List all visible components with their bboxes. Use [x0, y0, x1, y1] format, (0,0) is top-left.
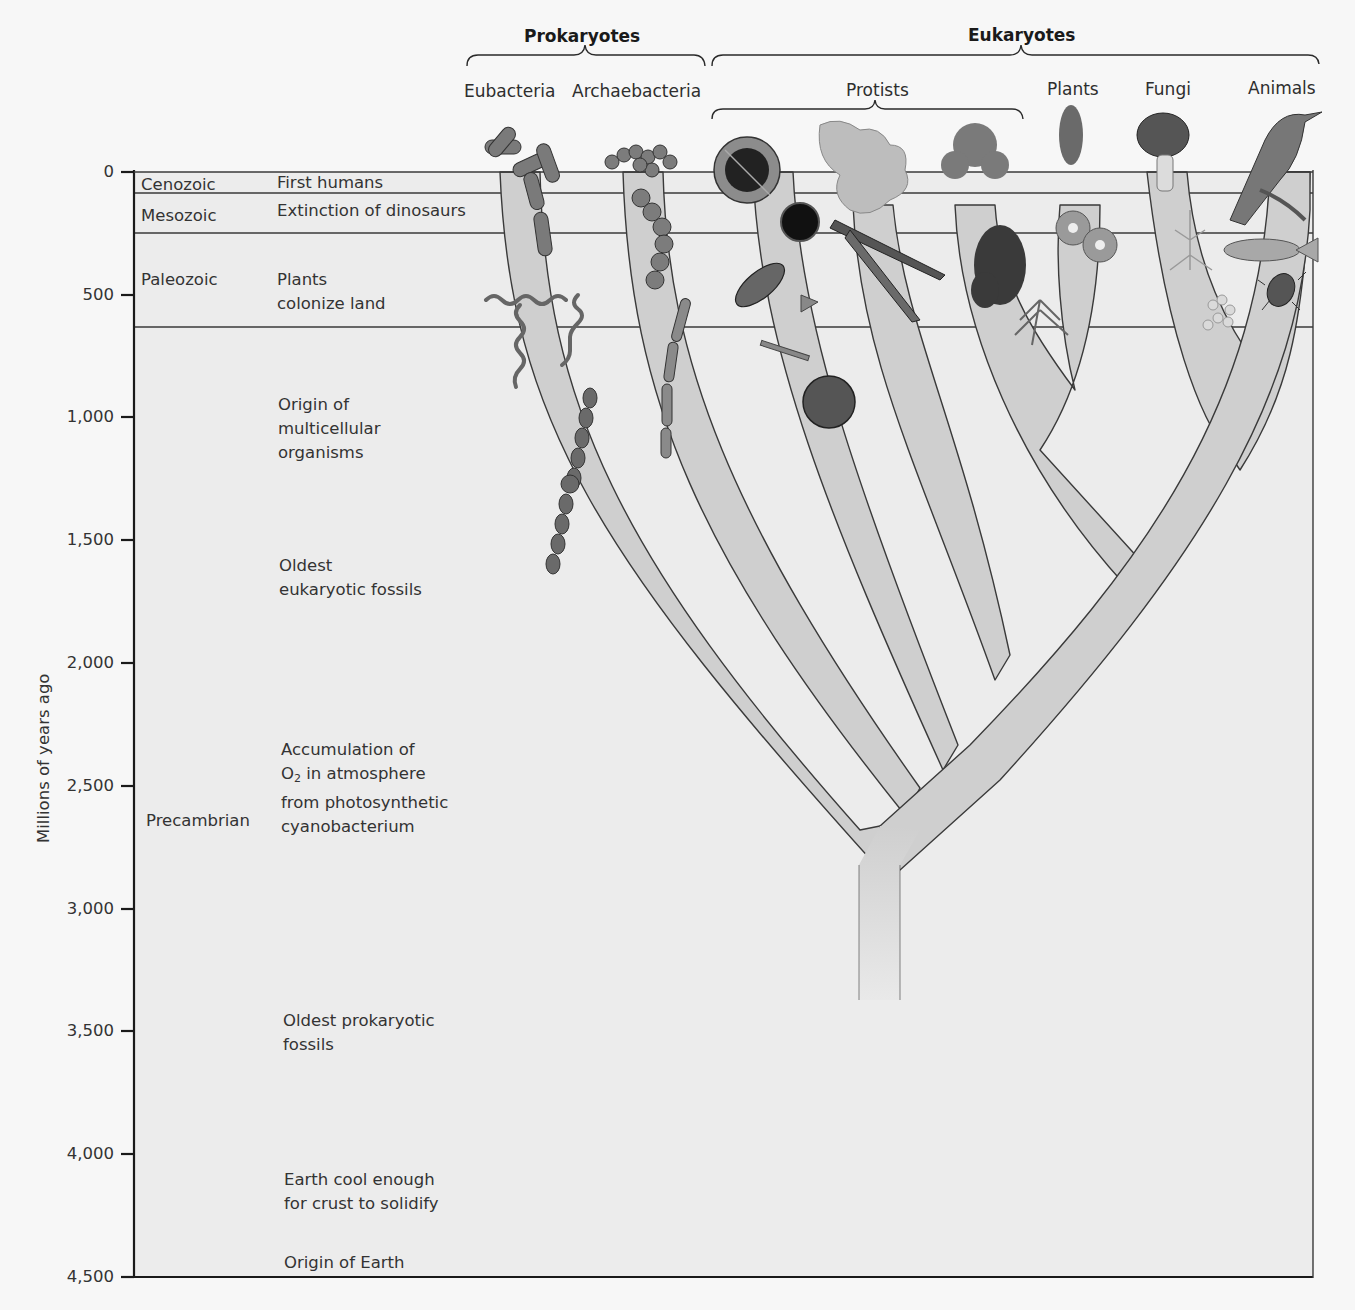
event-first-humans: First humans	[277, 175, 383, 192]
taxon-archaebacteria: Archaebacteria	[572, 83, 701, 100]
y-axis-title: Millions of years ago	[36, 674, 53, 843]
event-origin-of-earth: Origin of Earth	[284, 1255, 405, 1272]
tick-label-2000: 2,000	[14, 655, 114, 672]
eukaryotes-brace	[712, 45, 1319, 66]
tick-label-1500: 1,500	[14, 532, 114, 549]
tick-label-1000: 1,000	[14, 409, 114, 426]
chart-area	[134, 172, 1313, 1277]
tick-label-4000: 4,000	[14, 1146, 114, 1163]
event-multicellular-origin: Origin of multicellular organisms	[278, 393, 381, 465]
tick-label-0: 0	[14, 164, 114, 181]
event-dinosaur-extinction: Extinction of dinosaurs	[277, 203, 466, 220]
heliozoan-icon	[781, 203, 819, 241]
radiolarian-icon	[714, 137, 780, 203]
protists-label: Protists	[846, 82, 909, 99]
tick-label-500: 500	[14, 287, 114, 304]
tick-label-3500: 3,500	[14, 1023, 114, 1040]
protists-brace	[712, 100, 1023, 119]
timeline-diagram	[0, 0, 1355, 1310]
event-oxygen-accumulation: Accumulation of O2 in atmosphere from ph…	[281, 738, 448, 839]
tree-of-life-figure: Prokaryotes Eukaryotes Protists Eubacter…	[0, 0, 1355, 1310]
tick-label-4500: 4,500	[14, 1269, 114, 1286]
spherical-protist-icon	[803, 376, 855, 428]
event-oldest-eukaryotic-fossils: Oldest eukaryotic fossils	[279, 554, 422, 602]
tick-label-3000: 3,000	[14, 901, 114, 918]
taxon-plants: Plants	[1047, 81, 1099, 98]
era-paleozoic: Paleozoic	[141, 272, 218, 289]
event-earth-crust-solidifies: Earth cool enough for crust to solidify	[284, 1168, 439, 1216]
taxon-animals: Animals	[1248, 80, 1316, 97]
eukaryotes-label: Eukaryotes	[968, 27, 1075, 44]
taxon-fungi: Fungi	[1145, 81, 1191, 98]
prokaryotes-label: Prokaryotes	[524, 28, 640, 45]
prokaryotes-brace	[467, 45, 705, 66]
taxon-eubacteria: Eubacteria	[464, 83, 555, 100]
era-mesozoic: Mesozoic	[141, 208, 217, 225]
era-cenozoic: Cenozoic	[141, 177, 216, 194]
tick-label-2500: 2,500	[14, 778, 114, 795]
event-oldest-prokaryotic-fossils: Oldest prokaryotic fossils	[283, 1009, 435, 1057]
event-plants-colonize-land: Plants colonize land	[277, 268, 386, 316]
era-precambrian: Precambrian	[146, 813, 250, 830]
